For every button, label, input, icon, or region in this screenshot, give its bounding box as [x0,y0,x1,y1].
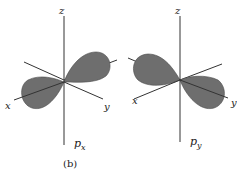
p-orbitals-diagram: z x y px z x y py (b) [0,0,237,173]
px-y-label: y [103,101,110,112]
py-y-label: y [230,97,237,108]
figure-caption: (b) [63,158,77,169]
px-lobe-negative [22,77,64,109]
px-x-label: x [5,100,11,111]
py-z-label: z [174,5,181,16]
px-orbital-label: px [74,137,86,152]
py-orbital-label: py [190,135,202,150]
px-y-axis-front [64,82,103,99]
px-lobe-positive [64,52,110,82]
py-lobe-negative [133,54,180,85]
px-panel: z x y px [5,5,117,152]
py-x-label: x [132,95,138,106]
px-z-label: z [58,5,65,16]
py-lobe-positive [180,76,224,108]
py-panel: z x y py [128,5,237,150]
